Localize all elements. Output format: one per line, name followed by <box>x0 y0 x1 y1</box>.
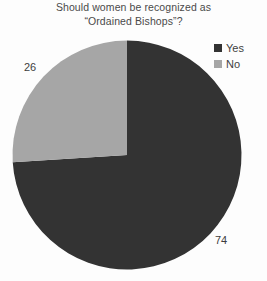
pie-label-no: 26 <box>24 61 36 73</box>
legend-item-yes[interactable]: Yes <box>214 41 266 55</box>
pie-chart-figure: Should women be recognized as “Ordained … <box>0 0 267 281</box>
legend-swatch-yes-icon <box>214 44 222 52</box>
pie-slice-no[interactable] <box>13 41 127 163</box>
legend-swatch-no-icon <box>214 60 222 68</box>
pie-label-yes: 74 <box>215 234 227 246</box>
chart-legend: Yes No <box>214 41 266 73</box>
pie-slices <box>13 41 242 270</box>
legend-label-no: No <box>226 58 240 70</box>
legend-label-yes: Yes <box>226 42 244 54</box>
legend-item-no[interactable]: No <box>214 57 266 71</box>
